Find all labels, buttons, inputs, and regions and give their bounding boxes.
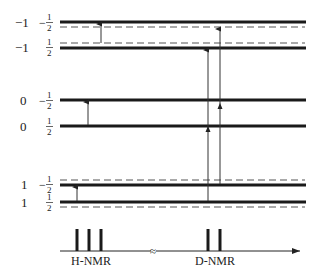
ms-numerator: 1 [47,12,52,22]
ms-denominator: 2 [47,101,52,111]
level-label-0: −1 − 1 2 [15,12,53,33]
level-label-3: 0 1 2 [20,116,53,137]
mi-label: −1 [15,40,29,55]
h-nmr-transitions [77,24,101,201]
nmr-energy-level-diagram: −1 − 1 2 −1 1 2 0 − 1 2 0 1 2 1 − 1 [0,0,321,279]
h-nmr-peaks [77,229,101,251]
h-nmr-label: H-NMR [71,254,111,268]
d-nmr-label: D-NMR [195,254,235,268]
level-label-1: −1 1 2 [15,37,53,58]
ms-denominator: 2 [47,203,52,213]
level-label-2: 0 − 1 2 [20,90,53,111]
energy-levels [60,22,306,202]
spectrum: ≈ H-NMR D-NMR [60,229,300,268]
ms-numerator: 1 [47,116,52,126]
mi-label: −1 [15,15,29,30]
ms-sign: − [39,94,46,108]
mi-label: 0 [20,119,27,134]
mi-label: 1 [21,195,28,210]
dashed-levels [60,27,305,207]
axis-break-icon: ≈ [150,245,156,257]
d-nmr-peaks [208,229,220,251]
mi-label: 0 [20,93,27,108]
ms-denominator: 2 [47,48,52,58]
arrowhead-icon [218,103,223,109]
ms-numerator: 1 [47,192,52,202]
d-nmr-transitions [206,29,223,201]
mi-label: 1 [21,177,28,192]
ms-denominator: 2 [47,127,52,137]
ms-sign: − [39,16,46,30]
level-labels: −1 − 1 2 −1 1 2 0 − 1 2 0 1 2 1 − 1 [15,12,53,213]
ms-numerator: 1 [47,90,52,100]
ms-sign: − [39,178,46,192]
ms-numerator: 1 [47,174,52,184]
ms-denominator: 2 [47,23,52,33]
ms-numerator: 1 [47,37,52,47]
level-label-5: 1 1 2 [21,192,53,213]
